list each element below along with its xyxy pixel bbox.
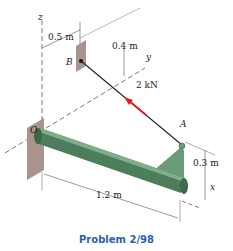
label-dim-0.3: 0.3 m bbox=[193, 158, 219, 168]
wall-plate-b bbox=[76, 40, 86, 72]
label-z: z bbox=[37, 12, 43, 22]
label-force: 2 kN bbox=[136, 80, 158, 90]
x-axis bbox=[182, 201, 200, 208]
label-o: O bbox=[30, 125, 38, 135]
label-x: x bbox=[210, 182, 215, 192]
label-y: y bbox=[145, 52, 152, 62]
point-a bbox=[179, 143, 185, 149]
statics-diagram: z y x O B A 0.5 m 0.4 m 2 kN 0.3 m 1.2 m bbox=[0, 0, 233, 251]
bar-end bbox=[180, 178, 188, 194]
label-a: A bbox=[179, 119, 187, 129]
figure-caption: Problem 2/98 bbox=[0, 234, 233, 245]
label-dim-0.5: 0.5 m bbox=[48, 32, 74, 42]
label-dim-0.4: 0.4 m bbox=[112, 41, 138, 51]
label-dim-1.2: 1.2 m bbox=[96, 190, 122, 200]
label-b: B bbox=[65, 57, 73, 67]
